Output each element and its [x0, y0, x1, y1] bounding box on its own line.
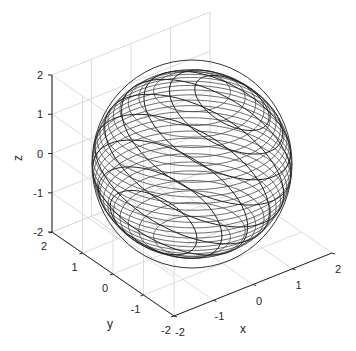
z-tick-label: 0: [37, 148, 43, 160]
x-tick-label: 0: [256, 295, 262, 307]
y-tick-label: 1: [71, 261, 77, 273]
x-tick-label: -2: [175, 326, 185, 338]
z-tick-label: 2: [37, 69, 43, 81]
y-tick-label: 2: [41, 240, 47, 252]
z-axis-label: z: [11, 155, 25, 161]
y-axis-label: y: [107, 317, 113, 331]
x-tick-label: -1: [215, 310, 225, 322]
axes: [52, 75, 332, 316]
x-tick-label: 1: [295, 279, 301, 291]
z-axis-ticks: -2-1012: [33, 69, 52, 238]
z-tick-label: -2: [33, 226, 43, 238]
z-tick-label: 1: [37, 108, 43, 120]
x-tick-label: 2: [335, 263, 341, 275]
y-tick-label: -1: [131, 303, 141, 315]
x-axis-label: x: [240, 322, 246, 336]
z-tick-label: -1: [33, 187, 43, 199]
sphere-3d-plot: -2-1012 210-1-2 -2-1012 x y z: [0, 0, 356, 351]
x-axis-ticks: -2-1012: [174, 253, 341, 338]
y-tick-label: -2: [161, 324, 171, 336]
y-tick-label: 0: [102, 282, 108, 294]
